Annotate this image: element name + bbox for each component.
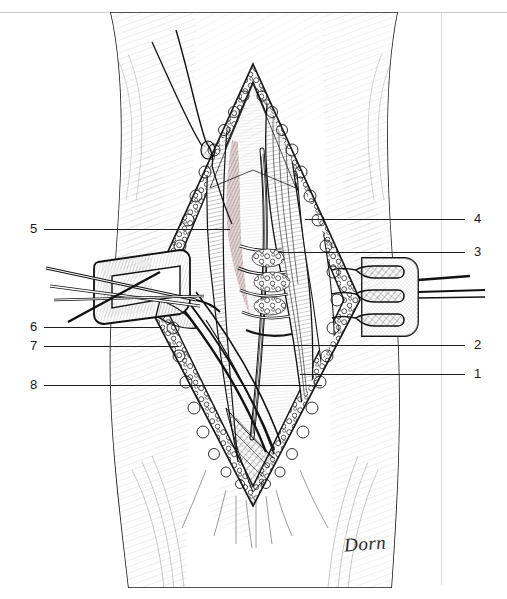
callout-number-4[interactable]: 4 bbox=[474, 212, 481, 225]
leader-line-7 bbox=[44, 346, 179, 347]
artist-signature: Dorn bbox=[343, 532, 387, 557]
leader-line-3 bbox=[278, 252, 465, 253]
illustration-page: 5 6 7 8 4 3 2 1 Dorn bbox=[0, 0, 507, 599]
anatomical-illustration bbox=[0, 0, 507, 599]
callout-number-8[interactable]: 8 bbox=[30, 378, 37, 391]
callout-number-3[interactable]: 3 bbox=[474, 245, 481, 258]
callout-number-7[interactable]: 7 bbox=[30, 339, 37, 352]
callout-number-5[interactable]: 5 bbox=[30, 222, 37, 235]
callout-number-1[interactable]: 1 bbox=[474, 367, 481, 380]
retractor-handle-shafts bbox=[418, 276, 485, 298]
leader-line-5 bbox=[44, 229, 230, 230]
leader-line-2 bbox=[262, 345, 465, 346]
leader-line-4 bbox=[305, 219, 465, 220]
leader-line-1 bbox=[300, 374, 465, 375]
leader-line-8 bbox=[44, 385, 322, 386]
callout-number-6[interactable]: 6 bbox=[30, 320, 37, 333]
callout-number-2[interactable]: 2 bbox=[474, 338, 481, 351]
leader-line-6 bbox=[44, 327, 162, 328]
